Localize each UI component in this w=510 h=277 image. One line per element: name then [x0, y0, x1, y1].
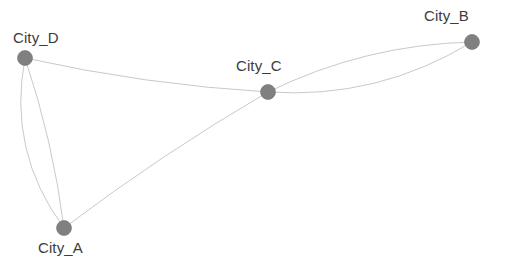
graph-edge: [64, 92, 268, 228]
graph-node-city-a[interactable]: [57, 221, 72, 236]
graph-edge: [25, 58, 64, 228]
network-graph-canvas: City_ACity_BCity_CCity_D: [0, 0, 510, 277]
graph-node-city-c[interactable]: [261, 85, 276, 100]
node-label-city-c: City_C: [236, 58, 282, 73]
graph-edge: [25, 58, 268, 92]
node-label-city-b: City_B: [424, 8, 469, 23]
graph-node-city-b[interactable]: [465, 35, 480, 50]
node-label-city-d: City_D: [13, 30, 59, 45]
graph-svg: [0, 0, 510, 277]
node-label-city-a: City_A: [38, 240, 83, 255]
graph-edge: [268, 42, 472, 93]
graph-node-city-d[interactable]: [18, 51, 33, 66]
graph-edge: [21, 58, 64, 228]
